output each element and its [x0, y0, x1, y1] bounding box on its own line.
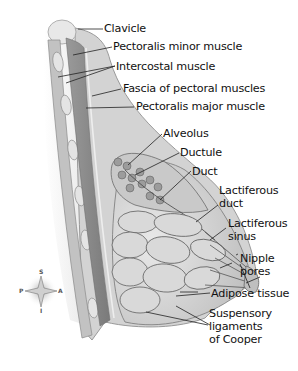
- label-alveolus: Alveolus: [163, 128, 209, 140]
- label-lactiferous-duct: Lactiferous duct: [219, 184, 278, 210]
- label-lactiferous-sinus: Lactiferous sinus: [228, 217, 287, 243]
- label-clavicle: Clavicle: [104, 23, 146, 35]
- label-pectoralis-minor: Pectoralis minor muscle: [113, 41, 242, 53]
- label-intercostal: Intercostal muscle: [116, 61, 215, 73]
- label-adipose: Adipose tissue: [211, 288, 289, 300]
- label-nipple-pores: Nipple pores: [240, 252, 274, 278]
- label-suspensory-ligaments: Suspensory ligaments of Cooper: [209, 307, 272, 346]
- compass-posterior: P: [19, 287, 23, 294]
- breast-anatomy-diagram: Clavicle Pectoralis minor muscle Interco…: [0, 0, 298, 371]
- label-ductule: Ductule: [180, 147, 222, 159]
- compass-superior: S: [39, 268, 43, 275]
- compass-inferior: I: [40, 307, 42, 314]
- orientation-compass-icon: [25, 275, 57, 307]
- compass-anterior: A: [58, 287, 63, 294]
- label-fascia: Fascia of pectoral muscles: [123, 83, 265, 95]
- label-duct: Duct: [192, 166, 217, 178]
- label-pectoralis-major: Pectoralis major muscle: [136, 101, 265, 113]
